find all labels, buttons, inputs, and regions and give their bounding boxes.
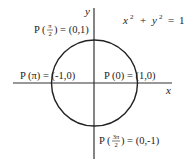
svg-text:) = (0,-1): ) = (0,-1) xyxy=(121,135,160,147)
circle-equation: x 2 + y 2 = 1 xyxy=(122,13,185,26)
svg-text:y: y xyxy=(151,14,157,26)
svg-text:3π: 3π xyxy=(113,133,120,140)
x-axis-label: x xyxy=(165,84,171,96)
svg-text:π: π xyxy=(48,22,52,29)
point-label-left: P (π) = (-1,0) xyxy=(20,70,76,82)
point-label-right: P (0) = (1,0) xyxy=(104,70,156,82)
svg-text:2: 2 xyxy=(48,30,51,37)
svg-text:+: + xyxy=(140,14,146,26)
svg-text:P (: P ( xyxy=(34,24,46,36)
svg-text:2: 2 xyxy=(114,141,117,148)
unit-circle-diagram: x y x 2 + y 2 = 1 P ( π 2 ) = (0,1) P (π… xyxy=(0,0,187,161)
y-axis-label: y xyxy=(84,5,90,17)
point-label-top: P ( π 2 ) = (0,1) xyxy=(34,22,89,37)
svg-text:1: 1 xyxy=(179,14,185,26)
svg-text:2: 2 xyxy=(159,13,163,21)
point-label-bottom: P ( 3π 2 ) = (0,-1) xyxy=(99,133,160,148)
svg-text:=: = xyxy=(168,14,174,26)
svg-text:P (: P ( xyxy=(99,135,111,147)
svg-text:2: 2 xyxy=(130,13,134,21)
svg-text:x: x xyxy=(122,14,128,26)
svg-text:) = (0,1): ) = (0,1) xyxy=(54,24,89,36)
